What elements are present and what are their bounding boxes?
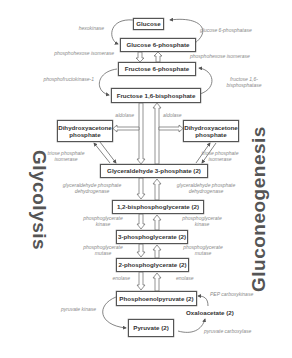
title-glycolysis: Glycolysis bbox=[28, 150, 50, 250]
enzyme-pgm-glyco: phosphoglycerate mutase bbox=[76, 245, 130, 257]
metabolite-glyceraldehyde-3-phosphate: Glyceraldehyde 3-phosphate (2) bbox=[100, 164, 208, 178]
metabolite-dhap-right: Dihydroxyacetone phosphate bbox=[183, 120, 239, 142]
enzyme-glucose-6-phosphatase: glucose 6-phosphatase bbox=[200, 28, 252, 34]
enzyme-pyruvate-kinase: pyruvate kinase bbox=[46, 307, 96, 313]
enzyme-pep-carboxykinase: PEP carboxykinase bbox=[210, 292, 253, 298]
metabolite-oxaloacetate: Oxaloacetate (2) bbox=[186, 309, 234, 316]
enzyme-gapdh-gluco: glyceraldehyde phosphate dehydrogenase bbox=[166, 183, 246, 195]
enzyme-hexokinase: hexokinase bbox=[60, 26, 104, 32]
enzyme-enolase-glyco: enolase bbox=[100, 276, 130, 282]
metabolite-dhap-left: Dihydroxyacetone phosphate bbox=[57, 120, 113, 142]
enzyme-pgk-gluco: phosphoglycerate kinase bbox=[175, 216, 229, 228]
metabolite-phosphoenolpyruvate: Phosphoenolpyruvate (2) bbox=[116, 291, 197, 306]
enzyme-aldolase-gluco: aldolase bbox=[163, 113, 182, 119]
metabolite-2-phosphoglycerate: 2-phosphoglycerate (2) bbox=[116, 258, 189, 272]
enzyme-phosphofructokinase: phosphofructokinase-1 bbox=[20, 77, 94, 83]
title-gluconeogenesis: Gluconeogenesis bbox=[248, 126, 270, 292]
enzyme-pyruvate-carboxylase: pyruvate carboxylase bbox=[204, 329, 251, 335]
metabolite-1-2-bisphosphoglycerate: 1,2-bisphosphoglycerate (2) bbox=[112, 200, 204, 214]
metabolite-pyruvate: Pyruvate (2) bbox=[128, 319, 174, 337]
enzyme-fbpase: fructose 1,6-bisphosphatase bbox=[216, 77, 272, 89]
metabolite-glucose-6-phosphate: Glucose 6-phosphate bbox=[120, 38, 196, 52]
enzyme-gapdh-glyco: glyceraldehyde phosphate dehydrogenase bbox=[52, 183, 132, 195]
enzyme-phosphohexose-isomerase-gluco: phosphohexose isomerase bbox=[190, 54, 250, 60]
enzyme-tpi-gluco: triose phosphate isomerase bbox=[200, 151, 240, 163]
metabolite-3-phosphoglycerate: 3-phosphoglycerate (2) bbox=[116, 230, 188, 244]
enzyme-pgk-glyco: phosphoglycerate kinase bbox=[76, 216, 130, 228]
metabolite-fructose-6-phosphate: Fructose 6-phosphate bbox=[118, 62, 196, 76]
enzyme-phosphohexose-isomerase-glyco: phosphohexose isomerase bbox=[30, 51, 114, 57]
metabolite-fructose-1-6-bisphosphate: Fructose 1,6-bisphosphate bbox=[111, 88, 201, 103]
metabolite-glucose: Glucose bbox=[133, 18, 164, 30]
enzyme-aldolase-glyco: aldolase bbox=[104, 113, 134, 119]
enzyme-pgm-gluco: phosphoglycerate mutase bbox=[176, 245, 230, 257]
enzyme-enolase-gluco: enolase bbox=[176, 276, 194, 282]
enzyme-tpi-glyco: triose phosphate isomerase bbox=[46, 151, 86, 163]
